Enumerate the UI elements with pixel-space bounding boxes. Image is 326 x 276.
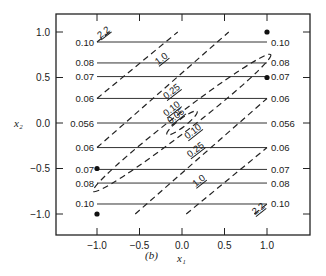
dashed-contour-label: 2.2 [95,24,112,41]
panel-label: (b) [145,249,158,262]
solid-contour-label-left: 0.06 [76,93,95,104]
solid-contour-label-left: 0.08 [76,178,95,189]
solid-contour-label-left: 0.10 [76,198,95,209]
contour-chart: −1.0−0.50.00.51.01.00.50.0−0.5−1.0 0.100… [0,0,326,276]
dashed-contour-label: 1.0 [153,50,170,67]
y-axis-label: x₂ [13,117,23,129]
design-point [94,166,99,171]
axis-ticks: −1.0−0.50.00.51.01.00.50.0−0.5−1.0 [30,14,310,251]
solid-contour-label-left: 0.08 [76,57,95,68]
y-tick-label: −0.5 [30,163,50,174]
solid-contour-label-right: 0.10 [271,198,290,209]
dashed-contour-label: 1.0 [190,172,207,189]
y-tick-label: 0.5 [36,72,50,83]
dashed-contour-label: 0.25 [184,139,205,159]
x-tick-label: 1.0 [260,240,274,251]
y-tick-label: 0.0 [36,118,50,129]
x-tick-label: 0.5 [218,240,232,251]
solid-contour-label-right: 0.07 [271,164,290,175]
design-point [264,75,269,80]
x-axis-label: x₁ [176,252,186,264]
solid-contour-label-left: 0.10 [76,37,95,48]
dashed-contour-label: 0.10 [182,121,203,141]
design-point [94,211,99,216]
design-point [264,29,269,34]
solid-contour-label-right: 0.06 [271,142,290,153]
solid-contours [97,42,267,204]
x-tick-label: 0.0 [175,240,189,251]
x-tick-label: −1.0 [87,240,107,251]
solid-contour-label-right: 0.06 [271,93,290,104]
solid-contour-label-right: 0.08 [271,57,290,68]
solid-contour-label-right: 0.08 [271,178,290,189]
solid-contour-label-left: 0.07 [76,164,95,175]
dashed-contour-label: 2.2 [249,200,266,217]
solid-contour-label-left: 0.06 [76,142,95,153]
solid-contour-label-left: 0.056 [70,118,94,129]
y-tick-label: −1.0 [30,209,50,220]
solid-contour-label-right: 0.056 [271,118,295,129]
dashed-contour-line [135,98,267,214]
solid-contour-label-right: 0.07 [271,71,290,82]
y-tick-label: 1.0 [36,27,50,38]
solid-contour-label-right: 0.10 [271,37,290,48]
solid-contour-label-left: 0.07 [76,71,95,82]
